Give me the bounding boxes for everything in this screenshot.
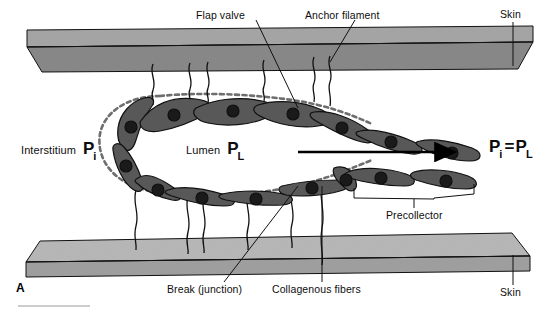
label-anchor-filament: Anchor filament xyxy=(305,10,379,21)
cell-nucleus xyxy=(306,182,318,194)
lumen-pressure-subscript: L xyxy=(237,150,244,162)
cell-nucleus xyxy=(336,122,348,134)
cell-nucleus xyxy=(196,192,208,204)
skin-slab-bottom xyxy=(26,233,530,277)
skin-slab-top xyxy=(27,26,533,72)
equality-left-subscript: i xyxy=(499,148,502,160)
equality-right-subscript: L xyxy=(526,148,533,160)
label-flap-valve: Flap valve xyxy=(196,10,245,21)
cell-nucleus xyxy=(250,193,262,205)
label-break-junction: Break (junction) xyxy=(167,284,242,295)
equality-operator: = xyxy=(504,137,516,156)
label-interstitium: InterstitiumPi xyxy=(21,140,98,159)
lumen-text: Lumen xyxy=(186,144,220,156)
label-skin-top: Skin xyxy=(500,9,521,20)
label-pressure-equality: Pi=PL xyxy=(489,138,534,157)
label-lumen: LumenPL xyxy=(186,140,245,159)
figure-panel-a: Flap valve Anchor filament Skin Intersti… xyxy=(0,0,549,310)
cell-nucleus xyxy=(125,121,137,133)
panel-letter-a: A xyxy=(16,281,25,295)
interstitium-text: Interstitium xyxy=(21,144,76,156)
cell-nucleus xyxy=(168,109,180,121)
cell-nucleus xyxy=(152,184,164,196)
cell-nucleus xyxy=(440,175,452,187)
label-skin-bottom: Skin xyxy=(500,287,521,298)
cell-nucleus xyxy=(385,136,397,148)
cell-nucleus xyxy=(120,160,132,172)
cell-nucleus xyxy=(287,108,299,120)
cell-nucleus xyxy=(375,172,387,184)
interstitium-pressure-subscript: i xyxy=(93,150,96,162)
label-collagenous-fibers: Collagenous fibers xyxy=(272,284,361,295)
label-precollector: Precollector xyxy=(386,210,443,221)
cell-nucleus xyxy=(227,105,239,117)
cell-nucleus xyxy=(340,174,352,186)
